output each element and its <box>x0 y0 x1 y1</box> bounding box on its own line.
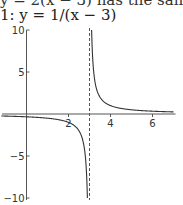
y-tick-label: −10 <box>3 193 24 204</box>
y-tick-label: 10 <box>12 25 25 36</box>
axes <box>2 28 176 200</box>
y-tick-label: −5 <box>10 151 25 162</box>
x-tick-label: 4 <box>107 118 113 129</box>
x-tick-label: 6 <box>149 118 155 129</box>
y-tick-label: 5 <box>18 67 24 78</box>
curve-right-branch <box>92 30 174 112</box>
function-plot: 246105−5−10 <box>0 0 183 205</box>
